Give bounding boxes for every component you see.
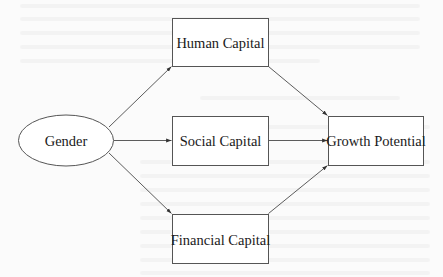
edge-gender-to-human-capital <box>109 67 172 128</box>
node-human-capital: Human Capital <box>173 19 269 67</box>
financial-capital-label: Financial Capital <box>171 232 270 248</box>
human-capital-label: Human Capital <box>176 35 264 51</box>
social-capital-label: Social Capital <box>180 133 262 149</box>
edge-human-capital-to-growth-potential <box>269 67 328 116</box>
gender-label: Gender <box>45 133 88 149</box>
node-social-capital: Social Capital <box>173 117 269 166</box>
edge-financial-capital-to-growth-potential <box>269 166 328 214</box>
node-gender: Gender <box>19 115 114 166</box>
edge-gender-to-financial-capital <box>109 153 172 214</box>
diagram-canvas: Gender Human Capital Social Capital Fina… <box>0 0 443 277</box>
path-diagram: Gender Human Capital Social Capital Fina… <box>0 0 443 277</box>
node-financial-capital: Financial Capital <box>171 215 270 264</box>
node-growth-potential: Growth Potential <box>326 117 425 166</box>
growth-potential-label: Growth Potential <box>326 133 425 149</box>
